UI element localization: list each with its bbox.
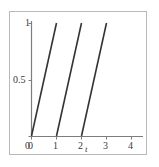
y-tick-label-1: 1 [25, 18, 30, 28]
sawtooth-ramp-3 [82, 23, 107, 136]
x-tick-label-2: 2 [78, 141, 83, 151]
x-tick-label-3: 3 [103, 141, 108, 151]
sawtooth-ramp-2 [57, 23, 82, 136]
y-tick-label-half: 0.5 [13, 75, 26, 85]
x-axis-variable-label: t [85, 145, 88, 154]
x-tick-label-1: 1 [53, 141, 58, 151]
x-tick-label-0: 0 [28, 141, 33, 151]
sawtooth-ramp-1 [32, 23, 57, 136]
x-tick-label-4: 4 [128, 141, 133, 151]
figure-container: 1 0.5 0 0 1 2 3 4 t [0, 0, 159, 167]
